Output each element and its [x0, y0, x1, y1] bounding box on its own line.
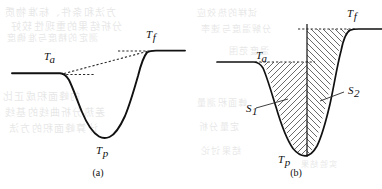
panel-b-label-area-s1: S1 — [246, 102, 258, 117]
panel-b-area-s1-hatch — [250, 55, 312, 161]
panel-a: Ta Tf Tp (a) — [12, 28, 185, 179]
panel-a-caption: (a) — [92, 167, 103, 179]
panel-a-label-final: Tf — [146, 28, 158, 43]
figure-root: 方法和条件、标准物质分析结果的重现性较好测定的精度与准确度的峰面积成正比差热分析… — [0, 0, 382, 189]
panel-a-label-onset: Ta — [44, 50, 56, 65]
panel-b-label-final: Tf — [347, 7, 359, 22]
panel-b-label-area-s2: S2 — [348, 84, 360, 99]
panel-a-peak-curve — [12, 51, 185, 138]
panel-a-label-peak: Tp — [96, 144, 109, 159]
panel-b-caption: (b) — [290, 167, 302, 179]
panel-a-tangent-dashed-line — [64, 52, 147, 74]
thermal-analysis-figure: Ta Tf Tp (a) — [0, 0, 382, 189]
panel-b-label-onset: Ta — [256, 49, 268, 64]
panel-b: Ta Tf Tp S1 S2 (b) — [217, 7, 382, 179]
panel-b-label-peak: Tp — [278, 153, 291, 168]
